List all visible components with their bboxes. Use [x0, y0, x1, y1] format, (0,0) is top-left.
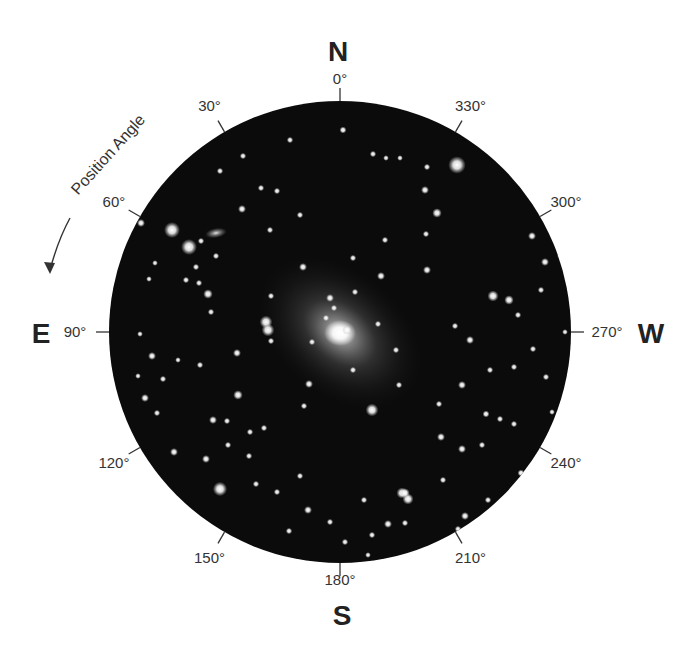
star [224, 418, 230, 424]
star [274, 188, 280, 194]
star [383, 155, 389, 161]
star [375, 321, 381, 327]
angle-label-300: 300° [551, 193, 582, 210]
star [209, 416, 217, 424]
star [339, 126, 346, 133]
star [141, 394, 149, 402]
cardinal-west: W [638, 318, 665, 349]
angle-label-0: 0° [333, 70, 347, 87]
star [342, 325, 352, 335]
cardinal-south: S [333, 600, 352, 631]
star [196, 280, 202, 286]
star [557, 253, 563, 259]
angle-label-330: 330° [455, 97, 486, 114]
star [382, 237, 388, 243]
star [511, 421, 517, 427]
star [487, 290, 498, 301]
star [458, 445, 466, 453]
position-angle-label: Position Angle [68, 111, 149, 198]
star [423, 231, 429, 237]
star [135, 373, 141, 379]
tick-30 [218, 121, 225, 132]
angle-label-30: 30° [198, 97, 221, 114]
star [262, 324, 275, 337]
star [208, 309, 214, 315]
star [543, 374, 549, 380]
star [350, 367, 356, 373]
angle-label-120: 120° [98, 454, 129, 471]
star [452, 323, 458, 329]
star [268, 293, 274, 299]
star [164, 222, 180, 238]
star [423, 266, 431, 274]
star [299, 263, 307, 271]
star [530, 346, 536, 352]
star [515, 312, 521, 318]
star [458, 381, 466, 389]
angle-label-60: 60° [103, 193, 126, 210]
star [225, 442, 231, 448]
star [217, 168, 223, 174]
star [517, 469, 524, 476]
star [233, 349, 241, 357]
star [485, 497, 491, 503]
star [268, 338, 274, 344]
star [287, 137, 293, 143]
star [253, 481, 259, 487]
star [369, 532, 375, 538]
star [538, 287, 544, 293]
star [261, 425, 267, 431]
star [352, 289, 358, 295]
tick-60 [129, 210, 140, 217]
star [297, 473, 303, 479]
star [448, 156, 466, 174]
star [437, 433, 445, 441]
star [258, 185, 264, 191]
star [397, 155, 403, 161]
star [393, 347, 399, 353]
star [504, 295, 514, 305]
star [396, 382, 402, 388]
star [366, 404, 379, 417]
star [440, 477, 446, 483]
star [157, 487, 163, 493]
star [384, 520, 392, 528]
star [370, 151, 376, 157]
star [421, 186, 429, 194]
star [137, 331, 143, 337]
angle-label-90: 90° [64, 323, 87, 340]
star [482, 410, 489, 417]
star [541, 258, 549, 266]
star [238, 205, 246, 213]
star [350, 255, 356, 261]
star [323, 315, 329, 321]
star [455, 526, 461, 532]
star [286, 528, 292, 534]
star [466, 336, 474, 344]
star [400, 488, 410, 498]
star [528, 232, 536, 240]
tick-330 [456, 121, 463, 132]
star [365, 552, 371, 558]
star [213, 482, 227, 496]
angle-label-180: 180° [324, 571, 355, 588]
tick-120 [129, 448, 140, 455]
star [549, 409, 555, 415]
star [377, 272, 385, 280]
star [479, 442, 485, 448]
star [331, 305, 337, 311]
star [305, 380, 313, 388]
star [402, 520, 408, 526]
star [197, 362, 203, 368]
star [198, 238, 204, 244]
cardinal-north: N [328, 36, 348, 67]
star [461, 512, 469, 520]
angle-label-240: 240° [551, 454, 582, 471]
star [424, 164, 430, 170]
star [247, 429, 253, 435]
star [154, 410, 160, 416]
position-angle-arrow-icon [44, 218, 70, 274]
angle-label-150: 150° [194, 549, 225, 566]
star [202, 455, 210, 463]
star [246, 453, 252, 459]
